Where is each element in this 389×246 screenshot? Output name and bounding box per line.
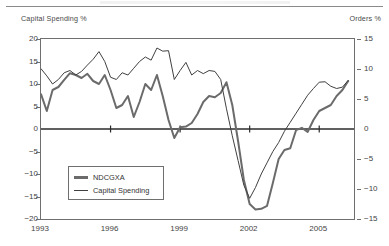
legend-item-capital-spending: Capital Spending xyxy=(74,184,158,197)
right-tick-label: 5 xyxy=(364,94,389,103)
x-tick-label: 1996 xyxy=(101,224,119,233)
chart-figure: Capital Spending % Orders % 20151050−5−1… xyxy=(0,0,389,246)
left-tick-label: −20 xyxy=(12,214,38,223)
right-tick-mark xyxy=(357,99,361,100)
x-axis-tick-labels: 19931996199920022005 xyxy=(40,224,355,238)
legend-swatch-capital-spending xyxy=(74,190,88,191)
x-tick-label: 2002 xyxy=(240,224,258,233)
right-tick-mark xyxy=(357,69,361,70)
legend-label-ndcgxa: NDCGXA xyxy=(93,174,125,181)
right-tick-label: −15 xyxy=(364,214,389,223)
legend-item-ndcgxa: NDCGXA xyxy=(74,171,158,184)
right-tick-label: −5 xyxy=(364,154,389,163)
x-tick-label: 1999 xyxy=(170,224,188,233)
left-axis-title: Capital Spending % xyxy=(21,14,87,23)
legend-label-capital-spending: Capital Spending xyxy=(93,187,149,194)
chart-legend: NDCGXA Capital Spending xyxy=(68,166,164,200)
right-tick-mark xyxy=(357,159,361,160)
x-tick-label: 1993 xyxy=(31,224,49,233)
right-axis-title: Orders % xyxy=(349,14,381,23)
left-tick-label: 0 xyxy=(12,124,38,133)
legend-swatch-ndcgxa xyxy=(74,176,88,178)
left-tick-label: 15 xyxy=(12,57,38,66)
right-tick-label: 15 xyxy=(364,34,389,43)
right-tick-mark xyxy=(357,219,361,220)
left-tick-label: −10 xyxy=(12,169,38,178)
right-tick-mark xyxy=(357,189,361,190)
left-tick-label: −15 xyxy=(12,192,38,201)
left-tick-label: 5 xyxy=(12,102,38,111)
left-axis-ticks: 20151050−5−10−15−20 xyxy=(8,38,38,220)
header-divider-rule xyxy=(6,6,383,7)
left-tick-label: 20 xyxy=(12,34,38,43)
left-tick-label: 10 xyxy=(12,79,38,88)
right-tick-label: 0 xyxy=(364,124,389,133)
right-axis-ticks: 151050−5−10−15 xyxy=(357,38,387,220)
x-tick-label: 2005 xyxy=(309,224,327,233)
right-tick-label: 10 xyxy=(364,64,389,73)
right-tick-label: −10 xyxy=(364,184,389,193)
right-tick-mark xyxy=(357,39,361,40)
cropped-title-remnant xyxy=(100,1,290,4)
left-tick-label: −5 xyxy=(12,147,38,156)
